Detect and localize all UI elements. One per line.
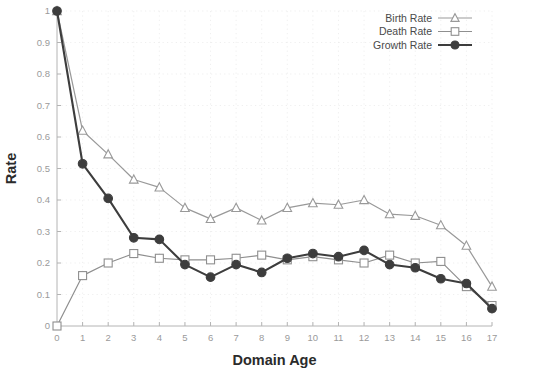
data-point-marker [334, 252, 343, 261]
x-axis-tick-label: 4 [157, 332, 162, 343]
x-axis-tick-label: 6 [208, 332, 213, 343]
x-axis-tick-label: 7 [233, 332, 238, 343]
data-point-marker [360, 195, 369, 203]
data-point-marker [451, 41, 459, 49]
x-axis-tick-label: 3 [131, 332, 136, 343]
y-axis-tick-label: 0.4 [37, 194, 50, 205]
chart-legend: Birth RateDeath RateGrowth Rate [373, 12, 472, 51]
data-point-marker [257, 268, 266, 277]
data-point-marker [488, 282, 497, 290]
x-axis-tick-label: 8 [259, 332, 264, 343]
y-axis-tick-label: 0.6 [37, 131, 50, 142]
series-line [57, 11, 492, 309]
data-point-marker [206, 214, 215, 222]
x-axis-title: Domain Age [232, 352, 316, 368]
y-axis-tick-label: 0.3 [37, 226, 50, 237]
data-point-marker [129, 234, 138, 243]
data-point-marker [53, 322, 61, 330]
x-axis-tick-label: 0 [54, 332, 59, 343]
y-axis-title: Rate [3, 153, 19, 184]
data-point-marker [257, 216, 266, 224]
data-point-marker [360, 259, 368, 267]
data-point-marker [78, 159, 87, 168]
x-axis-tick-label: 9 [285, 332, 290, 343]
x-axis-tick-label: 14 [410, 332, 421, 343]
x-axis-tick-label: 15 [436, 332, 447, 343]
data-point-marker [181, 260, 190, 269]
line-chart: 00.10.20.30.40.50.60.70.80.9101234567891… [0, 0, 539, 372]
legend-label-birth-rate: Birth Rate [385, 12, 432, 24]
data-point-marker [232, 203, 241, 211]
data-point-marker [258, 251, 266, 259]
series-growth-rate [53, 7, 497, 313]
y-axis-tick-label: 0.2 [37, 257, 50, 268]
y-axis-tick-label: 0.1 [37, 289, 50, 300]
x-axis-tick-label: 11 [334, 332, 344, 343]
x-axis-tick-label: 5 [182, 332, 187, 343]
data-point-marker [385, 210, 394, 218]
data-point-marker [207, 256, 215, 264]
data-point-marker [78, 126, 87, 134]
data-point-marker [283, 254, 292, 263]
data-point-marker [309, 249, 318, 258]
data-point-marker [451, 28, 459, 36]
data-point-marker [360, 246, 369, 255]
data-point-marker [437, 257, 445, 265]
data-point-marker [155, 235, 164, 244]
data-point-marker [53, 7, 62, 16]
data-point-marker [155, 254, 163, 262]
x-axis-tick-label: 12 [359, 332, 370, 343]
y-axis-tick-label: 0 [45, 320, 50, 331]
data-point-marker [488, 304, 497, 313]
y-axis-tick-label: 0.8 [37, 68, 50, 79]
data-point-marker [462, 241, 471, 249]
data-point-marker [386, 251, 394, 259]
y-axis-tick-label: 0.9 [37, 37, 50, 48]
x-axis-tick-label: 1 [80, 332, 85, 343]
chart-container: 00.10.20.30.40.50.60.70.80.9101234567891… [0, 0, 539, 372]
y-axis-tick-label: 0.5 [37, 163, 50, 174]
data-point-marker [104, 194, 113, 203]
data-point-marker [411, 263, 420, 272]
y-axis-tick-label: 0.7 [37, 100, 50, 111]
data-point-marker [181, 203, 190, 211]
x-axis-tick-label: 2 [106, 332, 111, 343]
data-point-marker [385, 260, 394, 269]
series-death-rate [53, 250, 496, 330]
series-line [57, 11, 492, 287]
y-axis-tick-label: 1 [45, 5, 50, 16]
x-axis-tick-label: 17 [487, 332, 498, 343]
x-axis-tick-label: 13 [384, 332, 395, 343]
legend-label-death-rate: Death Rate [379, 25, 432, 37]
data-point-marker [232, 260, 241, 269]
data-point-marker [130, 250, 138, 258]
x-axis-tick-label: 10 [308, 332, 319, 343]
data-point-marker [206, 273, 215, 282]
data-point-marker [104, 259, 112, 267]
data-point-marker [437, 274, 446, 283]
legend-label-growth-rate: Growth Rate [373, 39, 432, 51]
x-axis-tick-label: 16 [461, 332, 472, 343]
data-point-marker [462, 279, 471, 288]
data-point-marker [309, 199, 318, 207]
data-point-marker [79, 272, 87, 280]
axes: 00.10.20.30.40.50.60.70.80.9101234567891… [37, 5, 498, 343]
